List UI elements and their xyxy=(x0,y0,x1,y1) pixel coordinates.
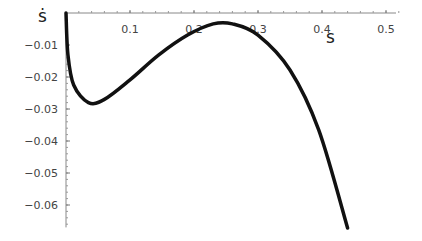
y-tick-label: −0.01 xyxy=(24,39,58,52)
y-tick-label: −0.06 xyxy=(24,199,58,212)
chart: 0.10.20.30.40.5 −0.01−0.02−0.03−0.04−0.0… xyxy=(0,0,422,241)
x-tick-label: 0.1 xyxy=(121,23,139,36)
x-axis-title: s xyxy=(326,27,335,47)
y-tick-label: −0.04 xyxy=(24,135,58,148)
y-tick-label: −0.02 xyxy=(24,71,58,84)
y-axis: −0.01−0.02−0.03−0.04−0.05−0.06 xyxy=(24,13,70,227)
data-curve xyxy=(66,13,348,228)
y-tick-label: −0.05 xyxy=(24,167,58,180)
y-axis-title: ṡ xyxy=(38,6,47,26)
x-tick-label: 0.5 xyxy=(377,23,395,36)
y-tick-label: −0.03 xyxy=(24,103,58,116)
